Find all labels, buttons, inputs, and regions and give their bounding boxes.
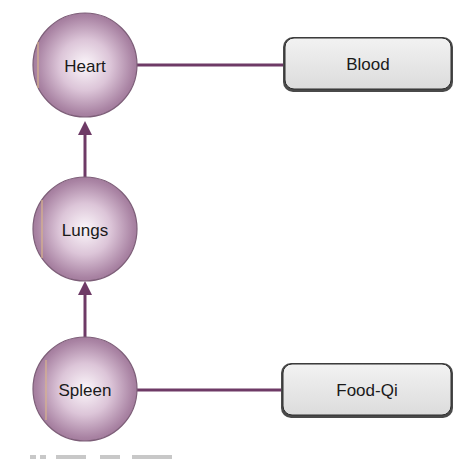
- cropped-caption: [30, 455, 172, 459]
- organ-node-lungs: Lungs: [33, 177, 137, 281]
- arrow-spleen-to-lungs: [78, 281, 92, 337]
- organ-label-spleen: Spleen: [59, 381, 112, 400]
- substance-label-food-qi: Food-Qi: [336, 381, 397, 400]
- substance-box-blood: Blood: [283, 37, 453, 92]
- arrow-lungs-to-heart: [78, 121, 92, 177]
- organ-label-heart: Heart: [64, 57, 106, 76]
- diagram-canvas: Heart Lungs Spleen Blood Food-Qi: [0, 0, 473, 459]
- organ-label-lungs: Lungs: [62, 221, 108, 240]
- organ-node-heart: Heart: [33, 13, 137, 117]
- organ-node-spleen: Spleen: [33, 337, 137, 441]
- substance-label-blood: Blood: [346, 55, 389, 74]
- substance-box-food-qi: Food-Qi: [281, 363, 453, 418]
